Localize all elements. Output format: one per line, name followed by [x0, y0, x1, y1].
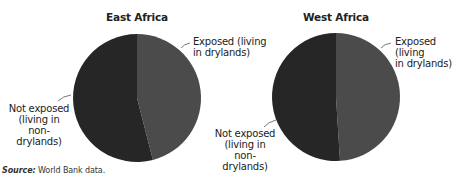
east-exposed-leader — [181, 43, 190, 48]
label-line: Not exposed — [6, 103, 72, 114]
east-notexposed-leader — [58, 95, 71, 101]
west-notexposed-leader — [264, 120, 276, 127]
not-exposed-slice — [272, 33, 340, 161]
label-line: (living in — [212, 139, 278, 150]
west-exposed-leader — [381, 43, 391, 48]
east-africa-pie — [73, 34, 201, 162]
east-notexposed-label: Not exposed (living in non-drylands) — [6, 103, 72, 147]
source-text: World Bank data. — [36, 166, 106, 175]
west-africa-pie — [272, 33, 400, 161]
source-prefix: Source: — [2, 166, 36, 175]
exposed-slice — [336, 33, 400, 161]
label-line: non-drylands) — [6, 125, 72, 147]
label-line: in drylands) — [193, 47, 266, 58]
label-line: Not exposed — [212, 128, 278, 139]
label-line: non-drylands) — [212, 150, 278, 172]
west-exposed-label: Exposed (living in drylands) — [395, 36, 468, 69]
label-line: (living in — [6, 114, 72, 125]
east-exposed-label: Exposed (living in drylands) — [193, 36, 266, 58]
label-line: Exposed (living — [395, 36, 468, 58]
west-notexposed-label: Not exposed (living in non-drylands) — [212, 128, 278, 172]
label-line: Exposed (living — [193, 36, 266, 47]
label-line: in drylands) — [395, 58, 468, 69]
source-note: Source: World Bank data. — [2, 166, 105, 175]
